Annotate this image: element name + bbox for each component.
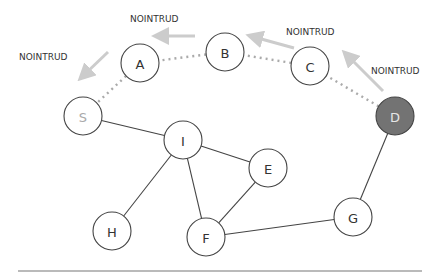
edge-i-h bbox=[124, 155, 172, 216]
nodes: ABCDSIEHFG bbox=[64, 33, 414, 256]
graph-diagram: NOINTRUDNOINTRUDNOINTRUDNOINTRUD ABCDSIE… bbox=[0, 0, 437, 274]
arrow-label: NOINTRUD bbox=[286, 27, 335, 37]
edge-i-e bbox=[201, 146, 250, 162]
edge-s-i bbox=[101, 120, 164, 135]
edge-i-f bbox=[187, 158, 201, 218]
arrow-icon bbox=[254, 37, 294, 48]
node-label: D bbox=[390, 110, 400, 125]
node-a[interactable]: A bbox=[121, 44, 159, 82]
node-label: C bbox=[305, 60, 314, 75]
edge-g-d bbox=[360, 134, 387, 200]
node-label: E bbox=[264, 162, 272, 177]
node-f[interactable]: F bbox=[187, 218, 225, 256]
node-label: H bbox=[107, 225, 117, 240]
arrow-label: NOINTRUD bbox=[19, 52, 68, 62]
node-c[interactable]: C bbox=[291, 47, 329, 85]
node-label: S bbox=[79, 110, 87, 125]
node-label: F bbox=[202, 231, 209, 246]
node-label: B bbox=[221, 46, 230, 61]
node-label: G bbox=[348, 211, 358, 226]
path-a-s bbox=[97, 76, 126, 103]
arrow-label: NOINTRUD bbox=[130, 14, 179, 24]
node-label: I bbox=[181, 134, 185, 149]
node-d[interactable]: D bbox=[376, 97, 414, 135]
node-i[interactable]: I bbox=[164, 121, 202, 159]
node-label: A bbox=[136, 57, 145, 72]
edge-f-g bbox=[225, 220, 334, 235]
node-g[interactable]: G bbox=[334, 198, 372, 236]
node-b[interactable]: B bbox=[206, 33, 244, 71]
node-e[interactable]: E bbox=[249, 149, 287, 187]
diagram-svg: NOINTRUDNOINTRUDNOINTRUDNOINTRUD ABCDSIE… bbox=[0, 0, 437, 274]
path-c-b bbox=[244, 55, 292, 63]
edge-e-f bbox=[219, 182, 256, 223]
node-s[interactable]: S bbox=[64, 97, 102, 135]
arrow-icon bbox=[84, 52, 108, 75]
arrow-label: NOINTRUD bbox=[371, 66, 420, 76]
path-b-a bbox=[159, 54, 206, 60]
node-h[interactable]: H bbox=[93, 212, 131, 250]
